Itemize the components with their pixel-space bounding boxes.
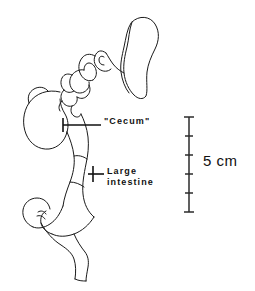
- rectum-left: [41, 223, 76, 279]
- rectum-right: [74, 234, 88, 281]
- scale-bar: [184, 117, 194, 212]
- large-intestine-left-wall: [63, 132, 74, 206]
- colon-left-loop-outer: [23, 198, 50, 227]
- large-intestine-leader: [88, 166, 104, 182]
- colon-fold-1: [74, 156, 87, 159]
- colon-lower-bend-inner: [52, 217, 94, 236]
- cecum-leader: [63, 118, 101, 132]
- colon-fold-2: [70, 182, 84, 187]
- duodenum-inner: [99, 56, 104, 65]
- digestive-tract-drawing: [0, 0, 255, 291]
- small-intestine-loop-1-inner: [84, 63, 96, 80]
- colon-lower-bend: [33, 206, 63, 228]
- rectum-end: [75, 279, 86, 281]
- duodenum-outer: [94, 51, 111, 71]
- anatomical-figure: "Cecum" Largeintestine 5 cm: [0, 0, 255, 291]
- large-intestine-label-line2: intestine: [107, 177, 154, 187]
- cecum-label: "Cecum": [104, 116, 150, 127]
- large-intestine-label: Largeintestine: [107, 166, 154, 188]
- stomach-outline: [124, 17, 159, 98]
- scale-bar-label: 5 cm: [203, 155, 238, 166]
- large-intestine-right-wall: [81, 114, 94, 217]
- small-intestine-loop-1-outer: [79, 54, 95, 81]
- small-intestine-squiggle-1: [71, 106, 81, 117]
- large-intestine-label-line1: Large: [107, 166, 137, 176]
- small-intestine-coil-outer: [70, 70, 90, 93]
